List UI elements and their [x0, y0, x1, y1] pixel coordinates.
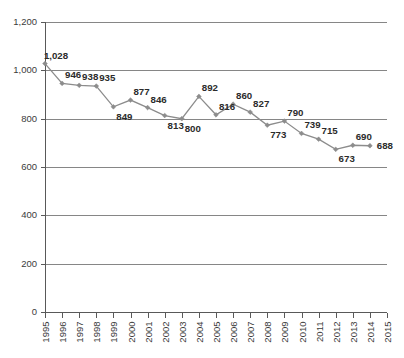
- x-axis-tick-label: 1998: [91, 322, 102, 343]
- x-axis: [45, 313, 388, 318]
- y-axis-tick-label: 400: [21, 209, 37, 220]
- data-point-label: 877: [133, 86, 149, 97]
- x-axis-tick-label: 2005: [211, 322, 222, 343]
- data-point-label: 773: [270, 129, 287, 140]
- data-point-label: 935: [99, 72, 116, 83]
- data-point-label: 846: [151, 94, 168, 105]
- data-point-label: 1,028: [44, 50, 69, 61]
- data-point-marker: [145, 105, 150, 110]
- data-point-label: 816: [219, 101, 236, 112]
- y-axis-tick-label: 0: [32, 306, 37, 317]
- x-axis-tick-label: 2006: [228, 322, 239, 343]
- data-point-label: 946: [65, 69, 82, 80]
- x-axis-tick-label: 2002: [160, 322, 171, 343]
- y-axis-tick-label: 200: [21, 258, 37, 269]
- x-axis-tick-label: 2001: [143, 322, 154, 343]
- data-point-label: 715: [322, 125, 339, 136]
- data-point-label: 827: [253, 98, 269, 109]
- data-point-label: 813: [168, 120, 185, 131]
- chart-canvas: 02004006008001,0001,200 1995199619971998…: [0, 0, 404, 358]
- x-axis-tick-label: 2008: [262, 322, 273, 343]
- x-axis-tick-labels: 1995199619971998199920002001200220032004…: [40, 322, 393, 343]
- data-point-marker: [368, 143, 373, 148]
- data-point-label: 849: [116, 111, 133, 122]
- x-axis-tick-label: 1996: [57, 322, 68, 343]
- data-point-marker: [162, 113, 167, 118]
- data-point-marker: [77, 83, 82, 88]
- y-axis-tick-labels: 02004006008001,0001,200: [13, 16, 37, 317]
- data-point-label: 938: [82, 71, 99, 82]
- x-axis-tick-label: 2004: [194, 322, 205, 343]
- data-point-label: 690: [356, 131, 372, 142]
- data-point-label: 892: [202, 82, 218, 93]
- data-point-marker: [128, 98, 133, 103]
- x-axis-tick-label: 2012: [331, 322, 342, 343]
- x-axis-tick-label: 2015: [382, 322, 393, 343]
- x-axis-tick-label: 2007: [245, 322, 256, 343]
- x-axis-tick-label: 2003: [177, 322, 188, 343]
- x-axis-tick-label: 2009: [279, 322, 290, 343]
- data-point-marker: [350, 143, 355, 148]
- data-point-label: 800: [185, 123, 201, 134]
- line-chart: 02004006008001,0001,200 1995199619971998…: [0, 0, 404, 358]
- gridlines: [45, 23, 387, 265]
- data-point-label: 673: [339, 153, 356, 164]
- data-point-label: 688: [377, 140, 394, 151]
- x-axis-tick-label: 2011: [314, 322, 325, 342]
- data-point-labels: 1,02894693893584987784681380089281686082…: [44, 50, 394, 165]
- data-point-label: 790: [287, 107, 303, 118]
- x-axis-tick-label: 2013: [348, 322, 359, 343]
- data-point-label: 739: [304, 119, 321, 130]
- x-axis-tick-label: 1997: [74, 322, 85, 343]
- y-axis-tick-label: 1,200: [13, 16, 37, 27]
- x-axis-tick-label: 2010: [297, 322, 308, 343]
- x-axis-tick-label: 1999: [108, 322, 119, 343]
- y-axis-tick-label: 600: [21, 161, 37, 172]
- y-axis-tick-label: 1,000: [13, 64, 37, 75]
- y-axis-tick-label: 800: [21, 113, 37, 124]
- x-axis-tick-label: 2014: [365, 322, 376, 343]
- x-axis-tick-label: 1995: [40, 322, 51, 343]
- x-axis-tick-label: 2000: [126, 322, 137, 343]
- data-point-label: 860: [236, 90, 252, 101]
